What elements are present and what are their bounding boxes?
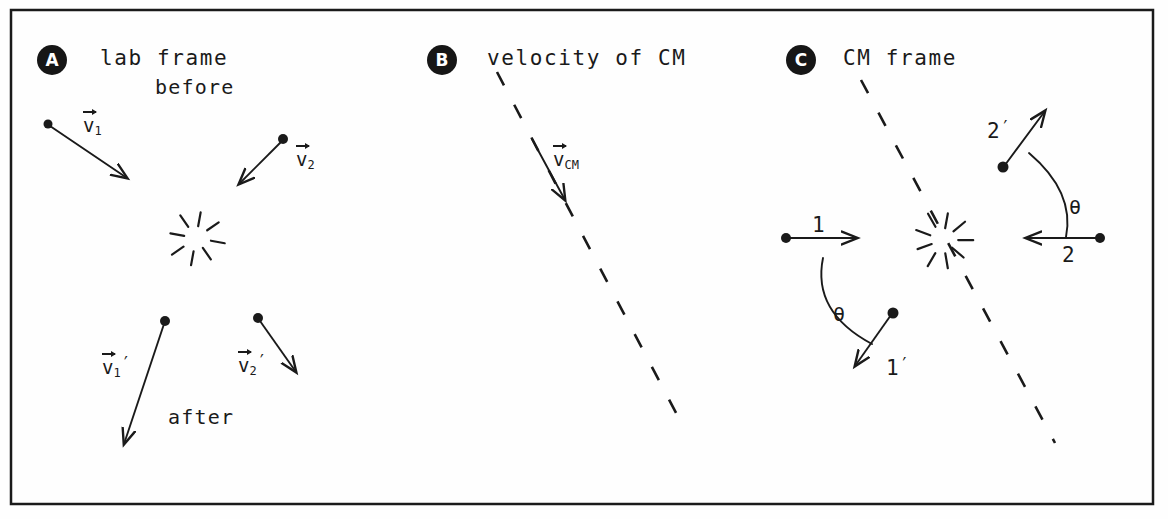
collision-starburst-a-spoke <box>203 248 211 260</box>
physics-diagram-figure: A lab frame before after v1 v2 v1′ v2′ B… <box>0 0 1168 519</box>
collision-starburst-a-spoke <box>198 212 201 226</box>
collision-starburst-a-spoke <box>207 222 219 230</box>
diagram-strokes <box>44 72 1106 444</box>
panel-a-before-label: before <box>155 77 234 97</box>
panel-badge-c: C <box>786 45 816 75</box>
panel-title-c: CM frame <box>843 48 957 69</box>
angle-label-theta-lower: θ <box>833 304 845 324</box>
vector-label-v1: v1 <box>83 116 102 137</box>
collision-starburst-c-spoke <box>916 230 930 235</box>
panel-title-b: velocity of CM <box>487 48 686 69</box>
particle-label-2-prime: 2′ <box>987 119 1011 142</box>
vector-label-v2-prime: v2′ <box>238 353 267 377</box>
angle-arc-theta-upper <box>1029 153 1067 237</box>
collision-starburst-a-spoke <box>180 215 188 227</box>
vector-arrow-v1-prime <box>124 324 164 444</box>
collision-starburst-a-spoke <box>211 241 225 244</box>
vector-label-vcm: vCM <box>553 150 579 171</box>
vector-label-v2: v2 <box>296 150 315 171</box>
panel-a-after-label: after <box>168 407 234 427</box>
vector-arrow-v2 <box>239 142 281 184</box>
collision-starburst-a-spoke <box>172 247 184 255</box>
dashed-axis-c <box>861 80 1055 443</box>
particle-label-2: 2 <box>1062 245 1075 266</box>
angle-arc-theta-lower <box>821 258 872 344</box>
panel-title-a: lab frame <box>100 48 228 69</box>
collision-starburst-c-spoke <box>945 253 948 268</box>
panel-badge-b: B <box>427 45 457 75</box>
panel-badge-a: A <box>37 45 67 75</box>
collision-starburst-a-spoke <box>191 251 194 265</box>
collision-starburst-c-spoke <box>928 253 936 266</box>
collision-starburst-c-spoke <box>945 213 948 228</box>
collision-starburst-c-spoke <box>918 244 932 249</box>
vector-arrow-particle-2-outgoing <box>1005 111 1045 165</box>
particle-dot-v1-prime <box>160 316 170 326</box>
collision-starburst-c-spoke <box>953 222 965 232</box>
collision-starburst-a-spoke <box>170 233 184 236</box>
dashed-axis-b <box>497 72 684 428</box>
particle-label-1: 1 <box>812 215 825 236</box>
angle-label-theta-upper: θ <box>1069 197 1081 217</box>
particle-label-1-prime: 1′ <box>886 356 910 379</box>
vector-label-v1-prime: v1′ <box>102 355 131 379</box>
